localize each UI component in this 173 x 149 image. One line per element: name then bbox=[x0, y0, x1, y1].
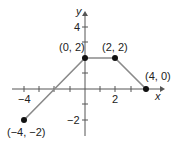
point-label: (2, 2) bbox=[102, 41, 128, 53]
x-tick-label: 2 bbox=[112, 93, 118, 105]
point-label: (0, 2) bbox=[59, 41, 85, 53]
chart: −4 2 4 −2 x y (−4, −2) (0, 2) (2, 2) (4,… bbox=[0, 0, 173, 149]
data-point bbox=[112, 55, 118, 61]
x-axis-label: x bbox=[154, 90, 161, 102]
point-label: (4, 0) bbox=[145, 70, 171, 82]
y-tick-label: −2 bbox=[67, 114, 80, 126]
y-axis-arrow-icon bbox=[82, 11, 88, 16]
data-point bbox=[21, 117, 27, 123]
y-tick-label: 4 bbox=[74, 21, 80, 33]
data-point bbox=[143, 86, 149, 92]
x-axis-arrow-icon bbox=[160, 86, 165, 92]
data-point bbox=[82, 55, 88, 61]
point-label: (−4, −2) bbox=[7, 126, 46, 138]
x-tick-label: −4 bbox=[18, 93, 31, 105]
y-axis-label: y bbox=[75, 5, 83, 17]
